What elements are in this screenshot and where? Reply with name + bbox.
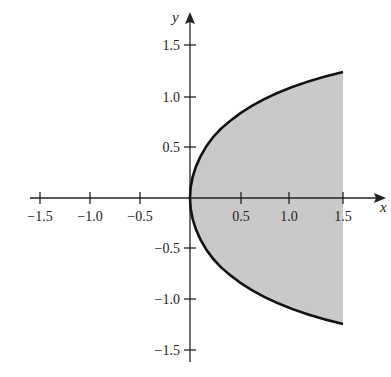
- x-tick-label: 1.5: [334, 209, 352, 224]
- y-tick-label: −1.5: [155, 343, 180, 358]
- y-axis-label: y: [170, 9, 179, 25]
- x-tick-label: 1.0: [280, 209, 298, 224]
- y-tick-label: 0.5: [163, 140, 181, 155]
- y-tick-label: −1.0: [155, 292, 180, 307]
- y-tick-label: 1.5: [163, 38, 181, 53]
- x-tick-label: 0.5: [232, 209, 250, 224]
- x-tick-label: −0.5: [127, 209, 152, 224]
- x-tick-label: −1.5: [27, 209, 52, 224]
- x-axis-label: x: [379, 199, 387, 215]
- chart-canvas: −1.5 −1.0 −0.5 0.5 1.0 1.5 1.5 1.0 0.5 −…: [0, 0, 391, 377]
- y-tick-label: 1.0: [163, 90, 181, 105]
- y-tick-label: −0.5: [155, 241, 180, 256]
- x-tick-label: −1.0: [77, 209, 102, 224]
